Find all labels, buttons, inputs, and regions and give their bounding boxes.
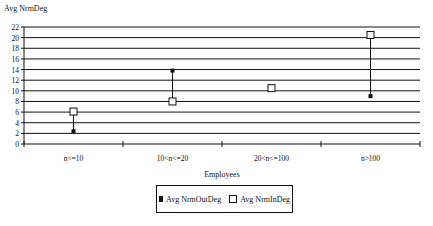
y-axis-title: Avg NrmDeg [4, 4, 47, 13]
x-category-label: n<=10 [64, 154, 84, 163]
y-tick-label: 18 [12, 44, 20, 53]
in-degree-marker [70, 108, 77, 115]
x-category-label: 10<n<=20 [157, 154, 189, 163]
legend-item-out: Avg NrmOutDeg [159, 195, 221, 204]
legend: Avg NrmOutDeg Avg NrmInDeg [156, 185, 293, 213]
in-degree-marker [367, 31, 374, 38]
filled-square-icon [159, 196, 163, 202]
y-tick-label: 20 [12, 34, 20, 43]
x-category-label: n>100 [361, 154, 380, 163]
y-tick-label: 2 [15, 129, 19, 138]
legend-label-out: Avg NrmOutDeg [166, 195, 221, 204]
y-tick-label: 16 [12, 55, 20, 64]
y-tick-label: 8 [15, 97, 19, 106]
out-degree-marker [369, 94, 373, 98]
y-tick-label: 4 [15, 119, 19, 128]
legend-label-in: Avg NrmInDeg [240, 195, 290, 204]
in-degree-marker [268, 85, 275, 92]
x-axis-title: Employees [204, 170, 240, 179]
out-degree-marker [72, 129, 76, 133]
in-degree-marker [169, 98, 176, 105]
y-tick-label: 14 [12, 66, 20, 75]
y-tick-label: 12 [12, 76, 20, 85]
y-tick-label: 0 [15, 140, 19, 149]
y-tick-label: 10 [12, 87, 20, 96]
y-tick-label: 6 [15, 108, 19, 117]
y-tick-label: 22 [12, 23, 20, 32]
out-degree-marker [171, 69, 175, 73]
open-square-icon [229, 195, 237, 203]
x-category-label: 20<n<=100 [254, 154, 289, 163]
legend-item-in: Avg NrmInDeg [229, 195, 290, 204]
